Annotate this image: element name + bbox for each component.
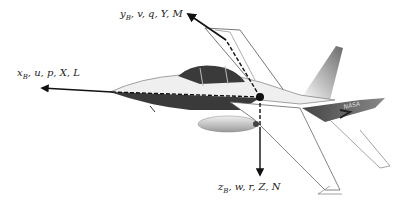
x-components: , u, p, X, L [28,67,80,78]
y-axis-arrow [188,14,226,40]
aircraft-axes-diagram: NASA xB, u, p, X, L yB, v, q, Y, M zB, w… [0,0,404,206]
x-axis-arrow [42,88,112,92]
fuel-tank [198,116,258,132]
x-axis-label: xB, u, p, X, L [17,67,80,81]
vertical-tail [300,46,343,100]
aircraft-illustration: NASA [0,0,404,206]
y-axis-label: yB, v, q, Y, M [120,8,183,22]
origin-point [256,93,264,101]
y-components: , v, q, Y, M [131,8,183,19]
z-components: , w, r, Z, N [228,181,280,192]
z-axis-label: zB, w, r, Z, N [218,181,280,195]
